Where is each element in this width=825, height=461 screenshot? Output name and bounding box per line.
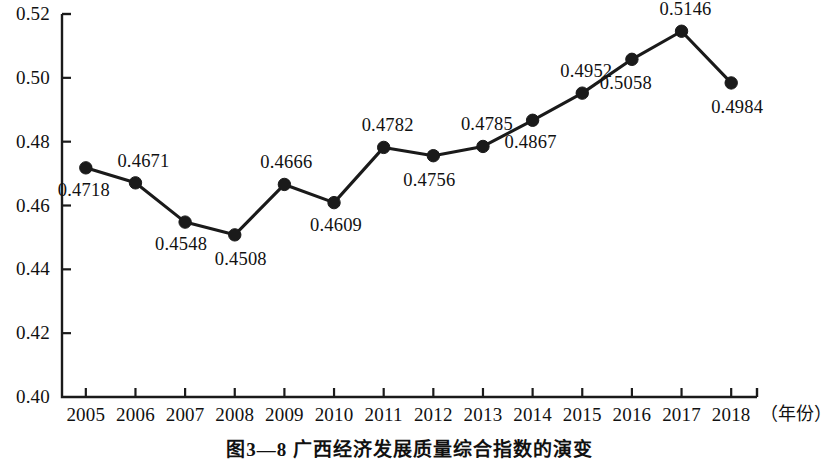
data-point-marker-2006	[129, 177, 141, 189]
data-point-marker-2010	[328, 196, 340, 208]
y-axis-tick-label: 0.44	[0, 259, 50, 278]
data-label-2016: 0.5058	[582, 74, 670, 93]
x-axis-tick-label-2014: 2014	[505, 405, 561, 424]
data-label-2008: 0.4508	[197, 250, 285, 269]
x-axis-tick-label-2017: 2017	[654, 405, 710, 424]
x-axis-tick-label-2013: 2013	[455, 405, 511, 424]
x-axis-tick-label-2015: 2015	[554, 405, 610, 424]
data-label-2018: 0.4984	[693, 98, 781, 117]
data-point-marker-2011	[377, 141, 389, 153]
x-axis-tick-label-2006: 2006	[107, 405, 163, 424]
data-label-2010: 0.4609	[292, 216, 380, 235]
y-axis-tick-label: 0.42	[0, 323, 50, 342]
data-label-2011: 0.4782	[344, 116, 432, 135]
data-label-2009: 0.4666	[242, 153, 330, 172]
data-label-2012: 0.4756	[385, 171, 473, 190]
data-point-marker-2008	[229, 229, 241, 241]
x-axis-tick-label-2007: 2007	[157, 405, 213, 424]
x-axis-tick-label-2016: 2016	[604, 405, 660, 424]
data-point-marker-2005	[80, 162, 92, 174]
y-axis-tick-label: 0.52	[0, 4, 50, 23]
data-label-2014: 0.4867	[487, 133, 575, 152]
y-axis-tick-label: 0.48	[0, 132, 50, 151]
x-axis-unit-label: （年份）	[760, 405, 825, 424]
x-axis-tick-label-2005: 2005	[58, 405, 114, 424]
data-point-marker-2012	[427, 150, 439, 162]
y-axis-tick-label: 0.50	[0, 68, 50, 87]
data-point-marker-2018	[725, 77, 737, 89]
x-axis-tick-label-2018: 2018	[703, 405, 759, 424]
data-label-2017: 0.5146	[642, 0, 730, 19]
x-axis-tick-label-2010: 2010	[306, 405, 362, 424]
data-point-marker-2007	[179, 216, 191, 228]
figure-caption: 图3—8 广西经济发展质量综合指数的演变	[0, 434, 819, 461]
y-axis-tick-label: 0.40	[0, 387, 50, 406]
x-axis-tick-label-2012: 2012	[405, 405, 461, 424]
x-axis-tick-label-2009: 2009	[256, 405, 312, 424]
x-axis-tick-label-2008: 2008	[207, 405, 263, 424]
data-label-2005: 0.4718	[40, 181, 128, 200]
data-label-2006: 0.4671	[99, 152, 187, 171]
x-axis-tick-label-2011: 2011	[356, 405, 412, 424]
data-point-marker-2017	[675, 25, 687, 37]
data-point-marker-2009	[278, 178, 290, 190]
